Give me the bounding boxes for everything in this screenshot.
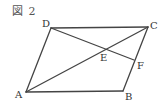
diagonal-ac <box>26 27 148 92</box>
segment-bc <box>123 27 148 91</box>
figure-2: 図 2 D C A B E F <box>0 0 168 108</box>
label-e: E <box>100 52 107 63</box>
parallelogram-diagram: D C A B E F <box>0 0 168 108</box>
label-d: D <box>42 18 50 29</box>
label-c: C <box>150 20 158 31</box>
segment-ab <box>26 91 123 92</box>
label-a: A <box>14 89 23 100</box>
segment-df <box>51 28 134 60</box>
segment-cd <box>51 27 148 28</box>
label-f: F <box>137 60 144 71</box>
label-b: B <box>125 91 132 102</box>
segment-da <box>26 28 51 92</box>
